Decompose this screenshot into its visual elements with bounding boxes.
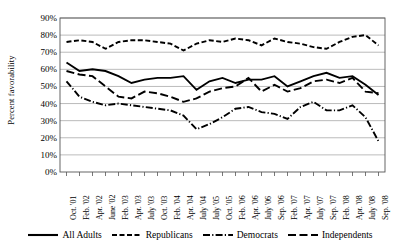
legend-swatch-dash-dot-icon — [202, 230, 234, 240]
plot-area — [0, 0, 400, 251]
legend-swatch-solid-icon — [27, 230, 59, 240]
axis-frame — [60, 18, 385, 172]
legend-item-independents[interactable]: Independents — [287, 230, 373, 240]
chart-figure: Percent favorability 0%10%20%30%40%50%60… — [0, 0, 400, 251]
series-line-republicans — [67, 35, 379, 50]
legend-item-republicans[interactable]: Republicans — [111, 230, 193, 240]
series-line-democrats — [67, 81, 379, 141]
plot-border — [60, 18, 385, 172]
legend-swatch-long-dash-icon — [287, 230, 319, 240]
chart-legend: All AdultsRepublicansDemocratsIndependen… — [0, 225, 400, 245]
data-series-layer — [67, 35, 379, 141]
legend-label: Democrats — [237, 230, 278, 240]
legend-label: Independents — [322, 230, 373, 240]
legend-swatch-dashed-icon — [111, 230, 143, 240]
legend-item-democrats[interactable]: Democrats — [202, 230, 278, 240]
legend-label: All Adults — [62, 230, 101, 240]
x-axis-tick-marks — [67, 172, 379, 176]
gridlines — [60, 18, 385, 155]
legend-label: Republicans — [146, 230, 193, 240]
series-line-all-adults — [67, 62, 379, 95]
legend-item-all-adults[interactable]: All Adults — [27, 230, 101, 240]
